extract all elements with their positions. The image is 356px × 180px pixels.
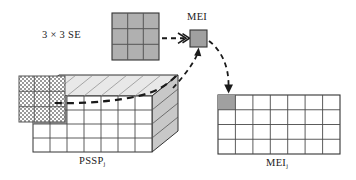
mei-pixel-square bbox=[190, 30, 207, 47]
mei-plane-label: MEIj bbox=[266, 158, 288, 169]
mei-plane-label-subscript: j bbox=[286, 162, 288, 169]
diagram-svg bbox=[0, 0, 356, 180]
structuring-element bbox=[112, 13, 159, 60]
pssp-checker-window bbox=[19, 76, 65, 122]
pssp-label-subscript: j bbox=[104, 160, 106, 167]
pssp-plane-label: PSSPj bbox=[79, 156, 106, 167]
structuring-element-label: 3 × 3 SE bbox=[42, 30, 81, 41]
mei-pixel-label: MEI bbox=[187, 12, 207, 23]
mei-to-meiplane-arrow bbox=[209, 41, 233, 94]
se-to-mei-arrow bbox=[162, 33, 190, 43]
pssp-label-text: PSSP bbox=[79, 155, 104, 166]
mei-plane-label-text: MEI bbox=[266, 157, 286, 168]
mei-plane-grid bbox=[218, 95, 340, 154]
figure-canvas: 3 × 3 SE MEI PSSPj MEIj bbox=[0, 0, 356, 180]
